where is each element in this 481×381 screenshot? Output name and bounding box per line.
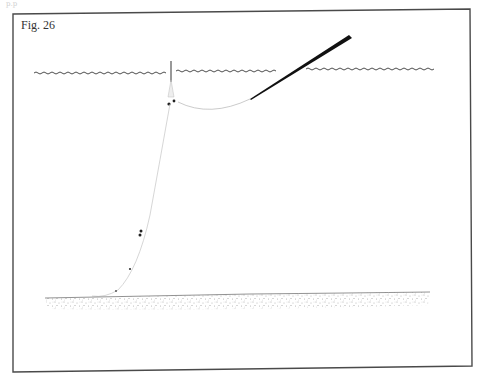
fishing-line [178, 99, 250, 109]
figure-frame [13, 9, 472, 372]
water-surface-icon [34, 72, 166, 74]
weight-icon [139, 234, 142, 237]
weight-icon [173, 100, 176, 103]
fishing-rod-icon [250, 35, 352, 100]
weight-icon [115, 290, 117, 292]
weight-icon [129, 268, 131, 270]
weight-icon [140, 230, 143, 233]
water-surface-icon [306, 68, 434, 70]
seabed-icon [45, 292, 430, 310]
water-surface-icon [176, 70, 276, 72]
figure-label: Fig. 26 [21, 18, 55, 33]
float-body [168, 80, 174, 97]
fishing-line [92, 104, 170, 296]
figure-diagram [0, 0, 481, 381]
